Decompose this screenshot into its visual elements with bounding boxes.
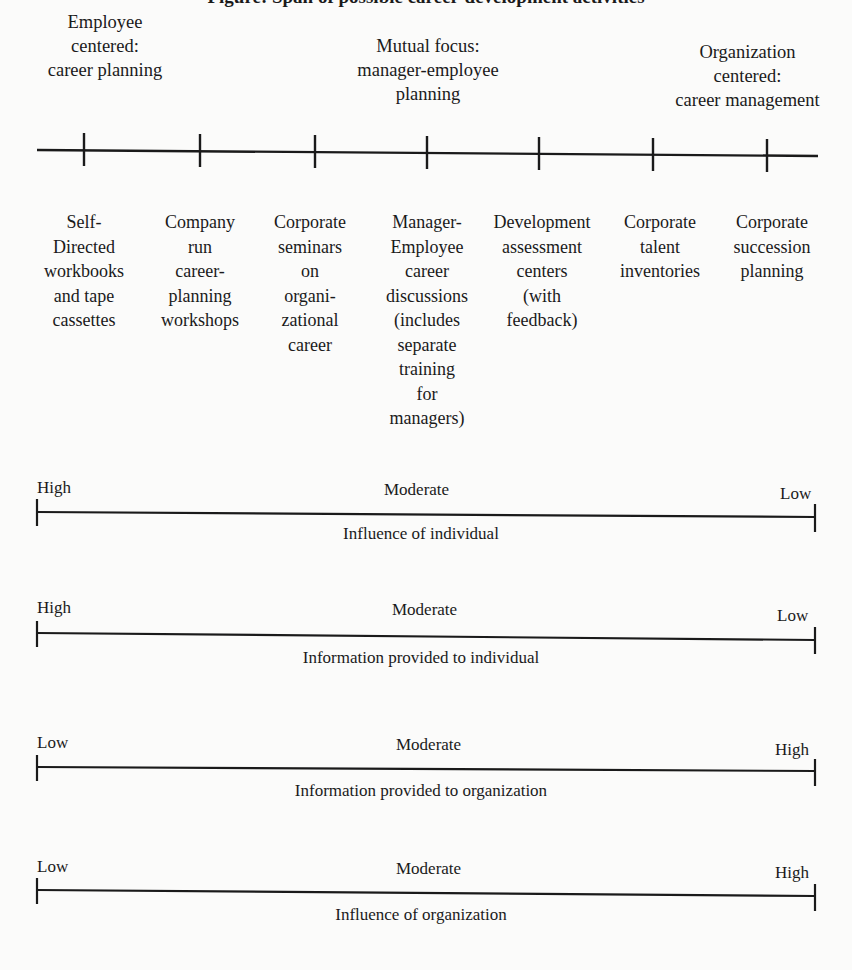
activity-line: talent [600,235,720,260]
activity-line: Corporate [712,210,832,235]
activity-self-directed-workbooks: Self- Directed workbooks and tape casset… [24,210,144,333]
scale-middle-label: Moderate [384,480,449,500]
scale-middle-label: Moderate [396,735,461,755]
activity-line: succession [712,235,832,260]
scale-influence-of-individual: High Moderate Low Influence of individua… [0,478,852,568]
activity-line: Development [482,210,602,235]
activity-career-planning-workshops: Company run career- planning workshops [140,210,260,333]
activity-line: assessment [482,235,602,260]
activity-line: feedback) [482,308,602,333]
activity-line: Manager- [367,210,487,235]
scale-middle-label: Moderate [392,600,457,620]
scale-left-label: High [37,478,71,498]
activity-line: zational [250,308,370,333]
activity-corporate-seminars: Corporate seminars on organi- zational c… [250,210,370,357]
scale-information-to-organization: Low Moderate High Information provided t… [0,733,852,823]
activity-line: separate [367,333,487,358]
scale-caption: Influence of individual [0,524,847,544]
activity-line: discussions [367,284,487,309]
activity-corporate-succession-planning: Corporate succession planning [712,210,832,284]
activity-line: for [367,382,487,407]
activity-line: workshops [140,308,260,333]
activity-line: run [140,235,260,260]
scale-middle-label: Moderate [396,859,461,879]
activity-line: training [367,357,487,382]
scale-influence-of-organization: Low Moderate High Influence of organizat… [0,857,852,947]
scale-right-label: Low [780,484,811,504]
activity-line: cassettes [24,308,144,333]
activity-line: on [250,259,370,284]
activity-line: Employee [367,235,487,260]
scale-right-label: High [775,863,809,883]
scale-caption: Information provided to organization [0,781,847,801]
activity-line: Directed [24,235,144,260]
activity-line: (with [482,284,602,309]
activity-manager-employee-discussions: Manager- Employee career discussions (in… [367,210,487,431]
activity-line: Company [140,210,260,235]
activity-line: planning [712,259,832,284]
scale-left-label: High [37,598,71,618]
activity-corporate-talent-inventories: Corporate talent inventories [600,210,720,284]
scale-caption: Influence of organization [0,905,847,925]
scale-left-label: Low [37,733,68,753]
activity-line: career [367,259,487,284]
activity-line: career [250,333,370,358]
activity-line: and tape [24,284,144,309]
scale-right-label: Low [777,606,808,626]
activity-line: centers [482,259,602,284]
activity-line: career- [140,259,260,284]
activity-line: workbooks [24,259,144,284]
activity-line: inventories [600,259,720,284]
activity-line: (includes [367,308,487,333]
activity-line: managers) [367,406,487,431]
activity-line: seminars [250,235,370,260]
activity-line: Corporate [250,210,370,235]
scale-left-label: Low [37,857,68,877]
activity-line: Corporate [600,210,720,235]
activity-line: Self- [24,210,144,235]
scale-caption: Information provided to individual [0,648,847,668]
activity-line: organi- [250,284,370,309]
scale-right-label: High [775,740,809,760]
scale-information-to-individual: High Moderate Low Information provided t… [0,598,852,688]
activity-development-assessment-centers: Development assessment centers (with fee… [482,210,602,333]
activity-line: planning [140,284,260,309]
